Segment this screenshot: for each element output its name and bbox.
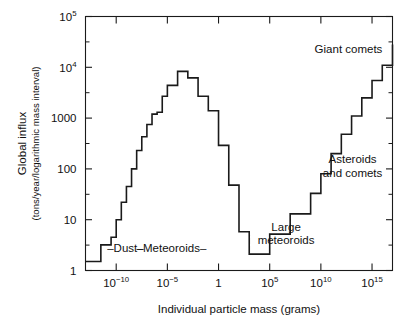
x-tick-label: 10−10: [103, 275, 130, 289]
annotation-asteroids-and-comets-line2: and comets: [323, 167, 383, 179]
annotation-asteroids-and-comets-line1: Asteroids: [329, 153, 377, 165]
y-tick-label: 10: [64, 214, 77, 226]
y-tick-label: 100: [57, 163, 76, 175]
x-tick-label: 1015: [361, 275, 383, 289]
y-tick-label: 105: [59, 9, 77, 23]
annotation-meteoroids: –Meteoroids–: [137, 242, 207, 254]
y-axis-title-line1: Global influx: [16, 112, 28, 176]
y-tick-label: 104: [59, 60, 77, 74]
figure-container: 110100100010410510−1010−5110510101015–Du…: [0, 0, 409, 327]
x-tick-label: 105: [261, 275, 279, 289]
y-tick-label: 1000: [51, 112, 77, 124]
x-tick-label: 1: [215, 277, 221, 289]
y-axis-title-line2: (tons/year/logarithmic mass interval): [30, 66, 41, 220]
annotation-large-meteoroids-line1: Large: [271, 221, 300, 233]
x-tick-label: 1010: [310, 275, 332, 289]
x-tick-label: 10−5: [157, 275, 179, 289]
chart-canvas: 110100100010410510−1010−5110510101015–Du…: [0, 0, 409, 327]
annotation-giant-comets: Giant comets: [315, 43, 383, 55]
y-tick-label: 1: [70, 265, 76, 277]
annotation-large-meteoroids-line2: meteoroids: [258, 234, 315, 246]
x-axis-title: Individual particle mass (grams): [158, 303, 321, 315]
